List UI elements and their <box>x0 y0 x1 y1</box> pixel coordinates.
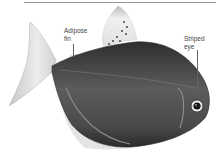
dorsal-fin <box>103 6 137 48</box>
figure-canvas: Adipose fin Striped eye <box>0 0 223 154</box>
fish-illustration <box>0 0 223 154</box>
leader-line-striped-eye <box>197 50 198 90</box>
leader-line-adipose-fin <box>73 44 74 57</box>
label-adipose-fin: Adipose fin <box>64 27 88 42</box>
caudal-fin <box>9 22 56 106</box>
label-striped-eye: Striped eye <box>184 35 205 50</box>
